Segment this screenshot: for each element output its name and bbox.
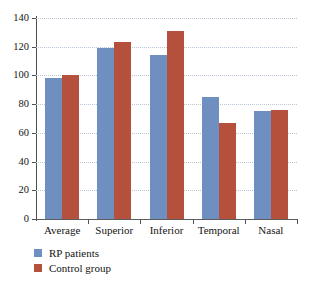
legend-item-control-group[interactable]: Control group	[34, 260, 111, 275]
plot-area	[36, 18, 297, 219]
legend-swatch-icon	[34, 264, 42, 272]
gridline	[36, 219, 297, 220]
legend-label: RP patients	[49, 247, 99, 259]
legend-swatch-icon	[34, 249, 42, 257]
bar-chart: 140120100806040200 AverageSuperiorInferi…	[0, 0, 311, 284]
y-axis-tick-label: 40	[2, 157, 29, 167]
bar	[254, 111, 271, 219]
x-axis-category-label: Nasal	[231, 224, 311, 237]
chart-legend: RP patients Control group	[34, 245, 111, 275]
y-axis-tick-label: 20	[2, 185, 29, 195]
bar	[114, 42, 131, 219]
y-axis-tick-label: 0	[2, 214, 29, 224]
y-axis-tick-label: 80	[2, 99, 29, 109]
y-axis-tick-label: 100	[2, 70, 29, 80]
gridline	[36, 18, 297, 19]
bar	[219, 123, 236, 219]
y-axis-tick-label: 120	[2, 42, 29, 52]
legend-item-rp-patients[interactable]: RP patients	[34, 245, 111, 260]
bar	[167, 31, 184, 219]
bar	[202, 97, 219, 219]
bar	[45, 78, 62, 219]
y-axis-tick-label: 60	[2, 128, 29, 138]
y-axis-tick-label: 140	[2, 13, 29, 23]
bar	[150, 55, 167, 219]
bar	[97, 48, 114, 219]
legend-label: Control group	[49, 262, 111, 274]
bar	[271, 110, 288, 219]
bar	[62, 75, 79, 219]
